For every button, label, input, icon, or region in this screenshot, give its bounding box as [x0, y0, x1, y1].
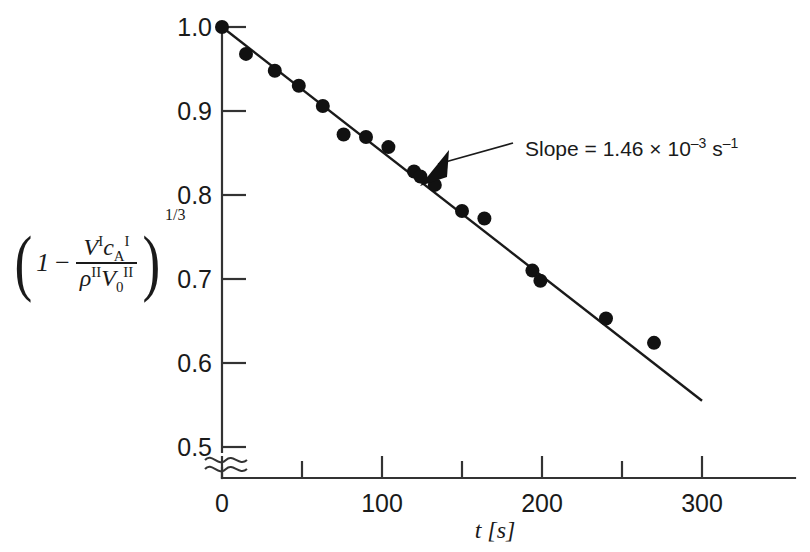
y-tick-label-1.0: 1.0: [177, 13, 212, 41]
x-tick-label-200: 200: [521, 489, 563, 517]
figure-container: ( 1 − VIcAI ρIIV0II ) 1/3: [0, 0, 810, 552]
y-tick-label-0.8: 0.8: [177, 181, 212, 209]
slope-annotation-text: Slope = 1.46 × 10–3 s–1: [525, 135, 739, 160]
data-point: [215, 20, 229, 34]
x-tick-label-300: 300: [681, 489, 723, 517]
slope-exponent-2: –1: [723, 135, 739, 151]
data-point: [647, 336, 661, 350]
slope-prefix: Slope = 1.46 × 10: [525, 137, 691, 160]
data-point: [239, 47, 253, 61]
data-point: [599, 311, 613, 325]
data-point: [455, 204, 469, 218]
y-axis-break-squiggle-2: [205, 467, 247, 472]
x-tick-label-100: 100: [361, 489, 403, 517]
data-point: [477, 212, 491, 226]
x-axis-label: t [s]: [475, 517, 516, 543]
data-points-group: [215, 20, 661, 350]
slope-arrowhead: [420, 150, 449, 186]
x-tick-label-0: 0: [215, 489, 229, 517]
y-tick-label-0.9: 0.9: [177, 97, 212, 125]
scatter-plot: 1.0 0.9 0.8 0.7 0.6 0.5 0 100 200 300 t …: [0, 0, 810, 552]
slope-annotation-group: Slope = 1.46 × 10–3 s–1: [420, 135, 739, 186]
data-point: [359, 130, 373, 144]
data-point: [316, 99, 330, 113]
data-point: [292, 79, 306, 93]
data-point: [337, 128, 351, 142]
axes-group: [205, 27, 795, 478]
y-tick-label-0.7: 0.7: [177, 265, 212, 293]
slope-leader-line: [438, 143, 513, 164]
data-point: [268, 64, 282, 78]
slope-exponent-1: –3: [691, 135, 707, 151]
data-point: [533, 274, 547, 288]
data-point: [381, 140, 395, 154]
y-tick-label-0.5: 0.5: [177, 433, 212, 461]
y-tick-label-0.6: 0.6: [177, 349, 212, 377]
x-tick-group: 0 100 200 300: [215, 456, 723, 517]
slope-mid: s: [706, 137, 722, 160]
y-tick-group: 1.0 0.9 0.8 0.7 0.6 0.5: [177, 13, 246, 461]
